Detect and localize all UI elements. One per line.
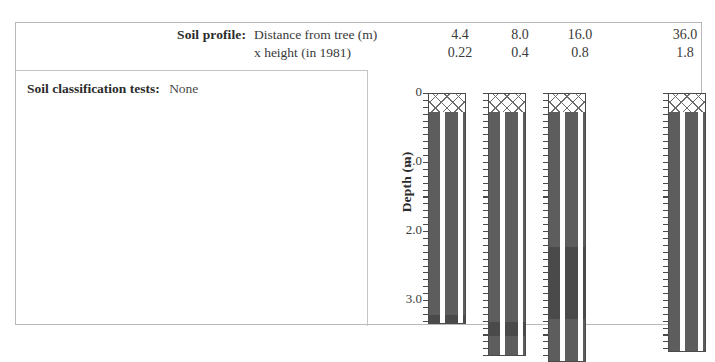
soil-classification-panel: Soil classification tests: None [16,70,368,326]
layer-firm-clay [548,112,586,247]
soil-classification-tests-row: Soil classification tests: None [27,81,198,97]
soil-column-2 [488,93,526,356]
layer-stiff-clay [488,322,526,336]
column-header-height: 0.22 [428,44,492,62]
column-header-4: 36.0 1.8 [653,26,715,62]
x-height-caption: x height (in 1981) [254,44,351,62]
column-header-2: 8.0 0.4 [488,26,552,62]
column-header-distance: 36.0 [653,26,715,44]
soil-column-4 [668,93,706,352]
depth-tick-label-3: 3.0 [388,291,422,307]
soil-column-1 [428,93,466,324]
layer-firm-clay-lower [548,319,586,362]
depth-tick-label-2: 2.0 [388,222,422,238]
layer-made-ground [548,93,586,112]
layer-made-ground [488,93,526,112]
column-header-height: 0.4 [488,44,552,62]
soil-classification-tests-label: Soil classification tests: [27,81,160,96]
depth-tick-label-1: 1.0 [388,153,422,169]
soil-column-3 [548,93,586,362]
layer-made-ground [668,93,706,112]
column-header-distance: 4.4 [428,26,492,44]
depth-tick-label-0: 0 [388,84,422,100]
layer-firm-clay [428,112,466,316]
layer-stiff-clay [548,247,586,320]
soil-profile-label: Soil profile: [126,27,246,43]
layer-stiff-clay [428,315,466,324]
column-header-distance: 16.0 [548,26,612,44]
figure-header: Soil profile: Distance from tree (m) x h… [16,23,701,70]
column-header-1: 4.4 0.22 [428,26,492,62]
column-header-height: 1.8 [653,44,715,62]
layer-made-ground [428,93,466,112]
distance-from-tree-caption: Distance from tree (m) [254,26,377,44]
layer-firm-clay-lower [488,336,526,356]
layer-firm-clay [668,112,706,352]
soil-classification-tests-value: None [169,81,198,96]
depth-axis-label: Depth (m) [399,137,415,227]
layer-firm-clay [488,112,526,323]
soil-profile-plot: Depth (m) 0 1.0 2.0 3.0 [368,70,703,326]
column-header-3: 16.0 0.8 [548,26,612,62]
column-header-height: 0.8 [548,44,612,62]
figure-frame: Soil profile: Distance from tree (m) x h… [15,22,702,325]
column-header-distance: 8.0 [488,26,552,44]
